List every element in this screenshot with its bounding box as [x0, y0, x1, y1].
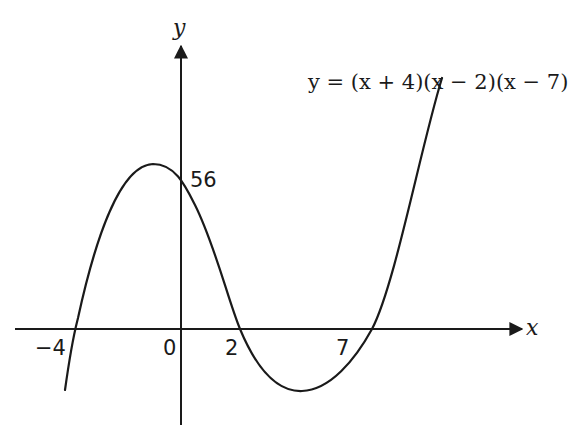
equation-label: y = (x + 4)(x − 2)(x − 7) [308, 72, 568, 93]
x-axis-label: x [526, 317, 538, 339]
x-intercept-label-2: 2 [225, 338, 238, 359]
y-axis-label: y [173, 17, 185, 39]
y-intercept-label: 56 [190, 170, 217, 191]
equation-text: y = (x + 4)(x − 2)(x − 7) [308, 70, 568, 94]
cubic-curve [65, 78, 442, 391]
origin-label: 0 [163, 338, 176, 359]
graph-canvas [0, 0, 576, 441]
x-intercept-label-neg4: −4 [35, 338, 66, 359]
x-intercept-label-7: 7 [336, 338, 349, 359]
